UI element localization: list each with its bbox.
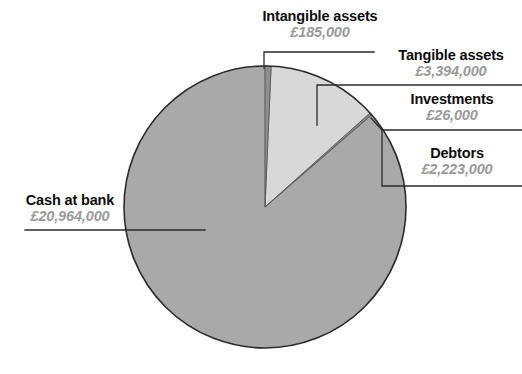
callout-value-debtors: £2,223,000: [392, 162, 522, 177]
callout-label-cash-at-bank: Cash at bank £20,964,000: [2, 193, 138, 224]
pie-chart: Intangible assets £185,000 Tangible asse…: [0, 0, 522, 374]
callout-value-intangible-assets: £185,000: [246, 25, 394, 40]
callout-value-investments: £26,000: [382, 108, 522, 123]
callout-label-debtors: Debtors £2,223,000: [392, 146, 522, 177]
callout-label-tangible-assets: Tangible assets £3,394,000: [380, 48, 522, 79]
callout-title-debtors: Debtors: [392, 146, 522, 161]
callout-title-intangible-assets: Intangible assets: [246, 9, 394, 24]
callout-title-cash-at-bank: Cash at bank: [2, 193, 138, 208]
leader-line-intangible-assets: [264, 52, 374, 68]
callout-value-tangible-assets: £3,394,000: [380, 64, 522, 79]
callout-value-cash-at-bank: £20,964,000: [2, 209, 138, 224]
callout-title-tangible-assets: Tangible assets: [380, 48, 522, 63]
callout-label-investments: Investments £26,000: [382, 92, 522, 123]
callout-title-investments: Investments: [382, 92, 522, 107]
callout-label-intangible-assets: Intangible assets £185,000: [246, 9, 394, 40]
